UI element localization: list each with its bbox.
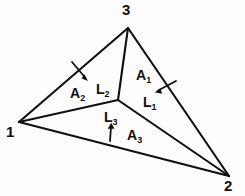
area-label-2-base: A <box>70 85 80 101</box>
area-label-1-sub: 1 <box>146 75 151 85</box>
vertex-label-3: 3 <box>122 2 130 17</box>
cevian-group <box>19 28 229 176</box>
cevian-3-center <box>118 28 128 100</box>
length-label-3: L3 <box>104 110 118 124</box>
area-label-1-base: A <box>136 67 146 83</box>
vertex-label-2: 2 <box>224 178 232 193</box>
area-label-3: A3 <box>127 128 142 142</box>
length-label-2-base: L <box>96 81 105 97</box>
area-label-2: A2 <box>70 86 85 100</box>
length-label-2-sub: 2 <box>105 89 110 99</box>
vertex-label-1: 1 <box>6 124 14 139</box>
area-label-3-sub: 3 <box>137 135 142 145</box>
edge-1-3 <box>19 28 128 122</box>
area-label-1: A1 <box>136 68 151 82</box>
length-label-3-sub: 3 <box>113 117 118 127</box>
triangle-diagram-canvas <box>0 0 245 196</box>
area-label-2-sub: 2 <box>80 93 85 103</box>
length-label-2: L2 <box>96 82 110 96</box>
length-label-1-sub: 1 <box>152 102 157 112</box>
geometry-figure: 1 2 3 A1 A2 A3 L1 L2 L3 <box>0 0 245 196</box>
area-label-3-base: A <box>127 127 137 143</box>
length-label-1: L1 <box>143 95 157 109</box>
length-label-1-base: L <box>143 94 152 110</box>
length-label-3-base: L <box>104 109 113 125</box>
